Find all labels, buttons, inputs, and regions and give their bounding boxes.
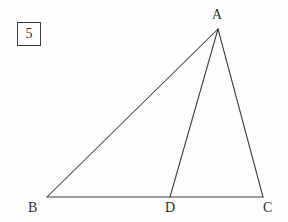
segment-CA bbox=[218, 29, 263, 197]
vertex-label-d: D bbox=[165, 201, 175, 215]
vertex-label-b: B bbox=[28, 201, 38, 215]
figure-canvas bbox=[0, 0, 288, 222]
segment-AD bbox=[170, 29, 218, 197]
segment-AB bbox=[47, 29, 218, 197]
problem-number-box: 5 bbox=[17, 22, 41, 46]
geometry-figure: A B D C 5 bbox=[0, 0, 288, 222]
vertex-label-a: A bbox=[212, 8, 222, 22]
problem-number-text: 5 bbox=[26, 27, 33, 41]
vertex-label-c: C bbox=[263, 201, 273, 215]
